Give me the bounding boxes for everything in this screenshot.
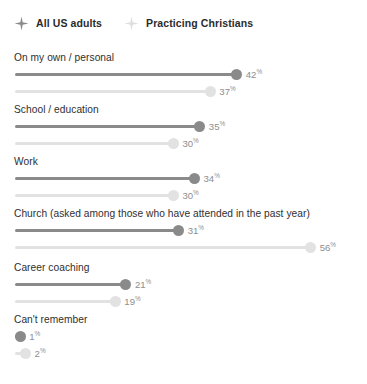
chart-row[interactable]: 30% (0, 135, 367, 152)
legend-label-all-us-adults: All US adults (36, 18, 102, 29)
chart-row[interactable]: 34% (0, 170, 367, 187)
bar-value-label: 42% (246, 66, 262, 83)
chart-row[interactable]: 37% (0, 83, 367, 100)
bar-end-dot[interactable] (168, 138, 179, 149)
bar-track (15, 90, 210, 93)
chart-group-label: Can't remember (14, 314, 87, 326)
chart-row[interactable]: 1% (0, 328, 367, 345)
chart-row[interactable]: 19% (0, 293, 367, 310)
bar-track (15, 125, 200, 128)
bar-value-label: 37% (219, 83, 235, 100)
bar-end-dot[interactable] (173, 225, 184, 236)
chart-row[interactable]: 35% (0, 118, 367, 135)
bar-value-label: 30% (182, 187, 198, 204)
chart-row[interactable]: 42% (0, 66, 367, 83)
bar-end-dot[interactable] (110, 296, 121, 307)
sparkle-icon (124, 16, 139, 31)
bar-track (15, 300, 115, 303)
bar-value-label: 30% (182, 135, 198, 152)
bar-value-label: 34% (204, 170, 220, 187)
bar-value-label: 19% (124, 293, 140, 310)
sparkle-icon (14, 16, 29, 31)
chart-legend: All US adults Practicing Christians (14, 14, 253, 32)
chart-group-label: School / education (14, 104, 99, 116)
bar-end-dot[interactable] (168, 190, 179, 201)
bar-value-label: 1% (29, 328, 40, 345)
bar-value-label: 35% (209, 118, 225, 135)
chart-group-label: Church (asked among those who have atten… (14, 208, 310, 220)
bar-track (15, 142, 173, 145)
lollipop-chart: All US adults Practicing Christians On m… (0, 0, 367, 384)
bar-value-label: 31% (188, 222, 204, 239)
bar-end-dot[interactable] (15, 331, 26, 342)
legend-item-practicing-christians[interactable]: Practicing Christians (124, 16, 253, 31)
bar-end-dot[interactable] (194, 121, 205, 132)
bar-value-label: 2% (35, 345, 46, 362)
chart-row[interactable]: 30% (0, 187, 367, 204)
chart-row[interactable]: 21% (0, 276, 367, 293)
legend-label-practicing-christians: Practicing Christians (146, 18, 253, 29)
bar-end-dot[interactable] (231, 69, 242, 80)
bar-end-dot[interactable] (305, 242, 316, 253)
chart-row[interactable]: 2% (0, 345, 367, 362)
chart-row[interactable]: 31% (0, 222, 367, 239)
bar-end-dot[interactable] (120, 279, 131, 290)
chart-group-label: Career coaching (14, 262, 90, 274)
bar-track (15, 246, 311, 249)
bar-end-dot[interactable] (189, 173, 200, 184)
legend-item-all-us-adults[interactable]: All US adults (14, 16, 102, 31)
bar-end-dot[interactable] (20, 348, 31, 359)
bar-track (15, 194, 173, 197)
bar-end-dot[interactable] (205, 86, 216, 97)
chart-row[interactable]: 56% (0, 239, 367, 256)
bar-track (15, 229, 179, 232)
bar-track (15, 283, 126, 286)
bar-value-label: 56% (320, 239, 336, 256)
bar-track (15, 73, 237, 76)
bar-track (15, 177, 195, 180)
bar-value-label: 21% (135, 276, 151, 293)
chart-group-label: On my own / personal (14, 52, 114, 64)
chart-group-label: Work (14, 156, 38, 168)
